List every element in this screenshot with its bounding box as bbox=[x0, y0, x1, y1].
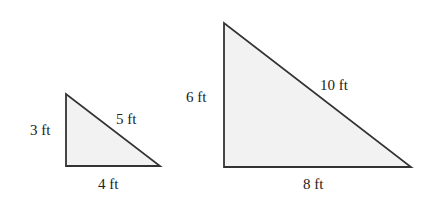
small-vertical-label: 3 ft bbox=[30, 123, 50, 138]
small-hypotenuse-label: 5 ft bbox=[116, 112, 136, 127]
large-base-label: 8 ft bbox=[303, 177, 323, 192]
large-vertical-label: 6 ft bbox=[186, 90, 206, 105]
large-triangle bbox=[224, 23, 411, 167]
triangles-diagram bbox=[0, 0, 432, 208]
small-base-label: 4 ft bbox=[98, 177, 118, 192]
large-hypotenuse-label: 10 ft bbox=[320, 78, 348, 93]
small-triangle bbox=[66, 94, 160, 166]
